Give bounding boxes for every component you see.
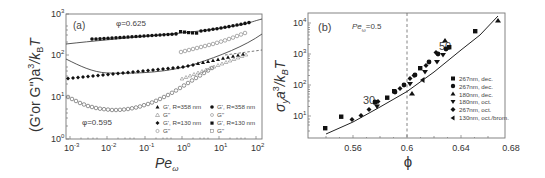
svg-text:G'': G'': [163, 111, 170, 118]
figure: 100 101 102 103 10-3 10-2 10-1 100 101 1…: [0, 0, 545, 178]
svg-text:0.6: 0.6: [401, 143, 414, 153]
panel-a: 100 101 102 103 10-3 10-2 10-1 100 101 1…: [26, 8, 265, 173]
svg-text:267nm, dec.: 267nm, dec.: [459, 75, 493, 82]
svg-text:180nm, dec.: 180nm, dec.: [459, 91, 493, 98]
panel-b-y-ticks: [308, 23, 311, 131]
panel-a-x-tick-labels: 10-3 10-2 10-1 100 101 102: [64, 142, 265, 153]
legend-triangle-down-icon: [451, 100, 456, 104]
svg-text:104: 104: [293, 17, 307, 28]
legend-triangle-up-icon: [451, 92, 456, 96]
legend-filled-square-icon: [210, 122, 213, 125]
legend-triangle-left-icon: [451, 116, 455, 121]
svg-text:101: 101: [214, 142, 228, 153]
phi-0625-annotation: φ=0.625: [116, 19, 146, 28]
series-gprime-358-triangles: [196, 52, 245, 65]
svg-text:G'': G'': [217, 127, 224, 134]
svg-text:102: 102: [293, 79, 307, 90]
panel-b-label: (b): [318, 21, 331, 33]
svg-text:0.64: 0.64: [452, 143, 470, 153]
svg-text:G'': G'': [163, 127, 170, 134]
svg-text:G', R=130 nm: G', R=130 nm: [217, 119, 255, 126]
svg-text:G', R=358 nm: G', R=358 nm: [163, 103, 201, 110]
panel-b-y-tick-labels: 101 102 103 104: [293, 17, 307, 121]
svg-text:103: 103: [293, 48, 307, 59]
svg-text:130nm, oct./brom.: 130nm, oct./brom.: [459, 114, 509, 121]
svg-text:0.68: 0.68: [502, 143, 520, 153]
svg-text:267nm, dec.: 267nm, dec.: [459, 83, 493, 90]
svg-text:101: 101: [293, 110, 307, 121]
phi-0595-annotation: φ=0.595: [82, 118, 112, 127]
svg-text:100: 100: [51, 133, 65, 144]
legend-square-icon: [451, 77, 455, 81]
legend-filled-triangle-icon: [156, 105, 160, 109]
panel-b-x-axis-title: ϕ: [404, 153, 412, 170]
svg-text:G', R=130 nm: G', R=130 nm: [163, 119, 201, 126]
panel-b-legend: 267nm, dec. 267nm, dec. 180nm, dec. 180n…: [451, 75, 510, 122]
legend-circle-icon: [451, 84, 455, 88]
legend-filled-diamond-icon: [156, 121, 160, 125]
svg-text:102: 102: [51, 49, 65, 60]
legend-filled-circle-icon: [210, 105, 214, 109]
svg-text:103: 103: [51, 8, 65, 19]
svg-text:180nm, oct.: 180nm, oct.: [459, 98, 492, 105]
panel-a-legend: G', R=358 nm G'' G', R=130 nm G'' G', R=…: [156, 103, 256, 135]
legend-diamond-icon: [451, 107, 456, 112]
svg-text:100: 100: [177, 142, 191, 153]
panel-a-x-axis-title: Peω: [155, 155, 178, 173]
legend-open-circle-small-icon: [156, 129, 159, 132]
legend-open-triangle-icon: [156, 113, 160, 117]
pe-omega-annotation: Peω=0.5: [352, 22, 382, 33]
series-phi-0595-gprime: [66, 63, 195, 81]
svg-text:10-2: 10-2: [101, 142, 117, 153]
panel-b-x-tick-labels: 0.56 0.6 0.64 0.68: [344, 143, 520, 153]
panel-b-y-axis-title: σya3/kBT: [271, 59, 290, 112]
svg-text:102: 102: [251, 142, 265, 153]
svg-text:10-1: 10-1: [139, 142, 155, 153]
series-gdoubleprime-358-upper: [179, 31, 247, 54]
svg-text:101: 101: [51, 91, 65, 102]
svg-text:267nm, oct.: 267nm, oct.: [459, 106, 492, 113]
svg-text:0.56: 0.56: [344, 143, 362, 153]
panel-a-y-axis-title: (G'or G'')a3/kBT: [26, 37, 45, 132]
series-phi-0625-gprime: [90, 21, 251, 41]
svg-text:10-3: 10-3: [64, 142, 80, 153]
legend-open-square-icon: [211, 130, 214, 133]
panel-b: 101 102 103 104 0.56 0.6 0.64 0.68 ϕ σya…: [271, 13, 520, 170]
panel-a-label: (a): [73, 20, 85, 31]
panel-a-y-tick-labels: 100 101 102 103: [51, 8, 65, 144]
svg-text:G', R=358 nm: G', R=358 nm: [217, 103, 255, 110]
svg-text:G'': G'': [217, 111, 224, 118]
legend-open-circle-icon: [211, 114, 214, 117]
